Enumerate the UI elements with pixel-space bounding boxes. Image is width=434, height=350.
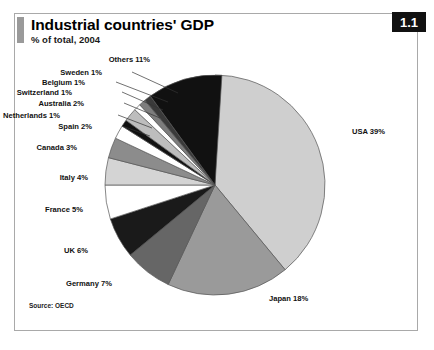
leader-line-sweden: [132, 72, 178, 93]
pie-label-australia: Australia 2%: [38, 99, 84, 108]
pie-label-germany: Germany 7%: [66, 279, 112, 288]
pie-label-sweden: Sweden 1%: [60, 68, 102, 77]
pie-slice-group: [105, 75, 325, 295]
pie-label-belgium: Belgium 1%: [42, 78, 85, 87]
pie-label-france: France 5%: [45, 205, 83, 214]
pie-label-spain: Spain 2%: [58, 122, 92, 131]
pie-label-switzerland: Switzerland 1%: [17, 88, 73, 97]
pie-chart-svg: USA 39%Japan 18%Germany 7%UK 6%France 5%…: [0, 0, 434, 350]
chart-page: Industrial countries' GDP % of total, 20…: [0, 0, 434, 350]
pie-label-canada: Canada 3%: [36, 143, 77, 152]
pie-label-usa: USA 39%: [352, 127, 385, 136]
pie-label-others: Others 11%: [109, 55, 151, 64]
pie-label-italy: Italy 4%: [60, 173, 89, 182]
pie-label-japan: Japan 18%: [269, 294, 309, 303]
pie-chart: USA 39%Japan 18%Germany 7%UK 6%France 5%…: [0, 0, 434, 350]
pie-label-netherlands: Netherlands 1%: [3, 111, 60, 120]
pie-label-uk: UK 6%: [64, 246, 88, 255]
